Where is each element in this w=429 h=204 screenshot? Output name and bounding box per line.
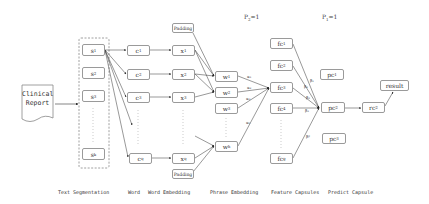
feature-capsule-fc2: fc2 <box>270 60 293 71</box>
weight-beta-3: β₃ <box>306 95 310 100</box>
segment-node-s3: s3 <box>82 90 105 102</box>
word-node-c3: c3 <box>127 92 150 103</box>
feature-capsule-fc4: fc4 <box>270 103 293 114</box>
padding-bottom: Padding <box>172 169 194 179</box>
stage-label-feature-capsules: Feature Capsules <box>271 189 319 195</box>
stage-label-word: Word <box>128 189 140 195</box>
word-node-c1: c1 <box>127 45 150 56</box>
segment-node-sk: sk <box>82 148 105 160</box>
word-node-c2: c2 <box>127 69 150 80</box>
weight-alpha-h: αₕ <box>246 120 250 125</box>
phrase-node-w1: w1 <box>215 71 238 82</box>
stage-label-text-segmentation: Text Segmentation <box>58 189 109 195</box>
weight-beta-g: βᵍ <box>306 134 310 139</box>
weight-beta-1: β₁ <box>310 78 314 83</box>
padding-top: Padding <box>172 23 194 33</box>
p2-label: P2=1 <box>244 13 259 22</box>
predict-capsule-pc1: pc1 <box>320 69 344 80</box>
clinical-report: Clinical Report <box>22 90 53 108</box>
embedding-node-x1: x1 <box>172 45 195 56</box>
stage-label-predict-capsule: Predict Capsule <box>328 189 373 195</box>
report-line-1: Clinical <box>22 90 53 99</box>
report-line-2: Report <box>22 99 53 108</box>
predict-capsule-pc2: pc2 <box>321 102 345 113</box>
phrase-node-w3: w3 <box>215 103 238 114</box>
embedding-node-x3: x3 <box>172 92 195 103</box>
weight-alpha-1: α₁ <box>247 74 251 79</box>
phrase-node-w2: w2 <box>215 87 238 98</box>
phrase-node-wh: wh <box>215 141 238 152</box>
stage-label-word-embedding: Word Embedding <box>148 189 190 195</box>
stage-label-phrase-embedding: Phrase Embedding <box>210 189 258 195</box>
feature-capsule-fc3: fc3 <box>270 82 293 93</box>
predict-capsule-pc3: pc3 <box>322 133 346 144</box>
segment-node-s2: s2 <box>82 67 105 79</box>
result-node: result <box>380 80 409 91</box>
segment-node-s1: s1 <box>82 44 105 56</box>
weight-beta-4: β₄ <box>305 108 309 113</box>
weight-beta-2: β₂ <box>304 84 308 89</box>
weight-alpha-3: α₃ <box>246 96 250 101</box>
embedding-node-x2: x2 <box>172 69 195 80</box>
rc-node: rc2 <box>362 102 385 113</box>
p1-label: P1=1 <box>322 13 337 22</box>
embedding-node-xq: xq <box>172 153 195 164</box>
feature-capsule-fcg: fcg <box>270 153 293 164</box>
word-node-cq: cq <box>129 153 152 164</box>
feature-capsule-fc1: fc1 <box>270 38 293 49</box>
weight-alpha-2: α₂ <box>247 85 251 90</box>
